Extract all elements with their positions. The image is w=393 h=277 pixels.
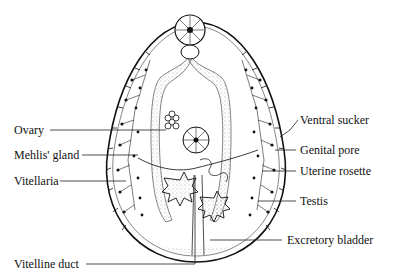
label-ovary: Ovary [14, 123, 44, 137]
ventral-sucker-shape [183, 127, 209, 153]
label-mehlis-gland: Mehlis' gland [14, 148, 79, 162]
label-ventral-sucker: Ventral sucker [300, 113, 369, 127]
label-vitellaria: Vitellaria [14, 174, 59, 188]
oral-sucker [175, 15, 205, 45]
label-genital-pore: Genital pore [300, 143, 360, 157]
label-excretory-bladder: Excretory bladder [287, 233, 373, 247]
pharynx [181, 45, 199, 59]
label-vitelline-duct: Vitelline duct [14, 257, 79, 271]
label-testis: Testis [300, 194, 328, 208]
label-uterine-rosette: Uterine rosette [300, 164, 371, 178]
